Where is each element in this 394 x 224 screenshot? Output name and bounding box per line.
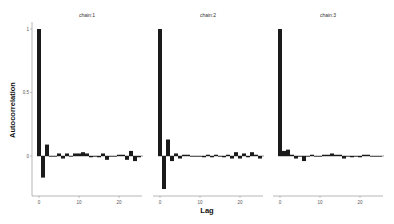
acf-bar xyxy=(113,156,117,157)
acf-bar xyxy=(370,156,374,157)
acf-bar xyxy=(49,156,53,157)
acf-bar xyxy=(210,156,214,157)
acf-bar xyxy=(37,29,41,156)
acf-bar xyxy=(69,156,73,157)
acf-bar xyxy=(354,156,358,157)
acf-bar xyxy=(109,156,113,157)
x-tick-label: 10 xyxy=(197,200,203,205)
acf-bar xyxy=(326,155,330,156)
acf-bar xyxy=(226,155,230,156)
acf-bar xyxy=(182,155,186,156)
x-tick-label: 20 xyxy=(237,200,243,205)
acf-bar xyxy=(77,153,81,156)
x-tick-label: 0 xyxy=(279,200,282,205)
acf-bar xyxy=(73,153,77,156)
acf-bar xyxy=(85,153,89,156)
acf-bar xyxy=(57,153,61,156)
acf-bar xyxy=(137,156,141,157)
acf-bar xyxy=(133,156,137,161)
panel-title: chain:2 xyxy=(200,12,216,18)
acf-bar xyxy=(129,151,133,156)
x-tick-label: 20 xyxy=(357,200,363,205)
acf-bar xyxy=(302,156,306,161)
acf-bar xyxy=(162,156,166,189)
acf-bar xyxy=(166,139,170,156)
acf-bar xyxy=(125,156,129,160)
acf-bar xyxy=(218,156,222,157)
x-tick-label: 10 xyxy=(76,200,82,205)
acf-bar xyxy=(282,151,286,156)
acf-bar xyxy=(250,152,254,156)
acf-bar xyxy=(314,156,318,157)
acf-bar xyxy=(310,155,314,156)
acf-bar xyxy=(254,155,258,156)
panel-title: chain:3 xyxy=(320,12,336,18)
acf-bar xyxy=(358,156,362,157)
acf-bar xyxy=(298,156,302,157)
acf-bar xyxy=(334,155,338,156)
acf-bar xyxy=(338,155,342,156)
acf-bar xyxy=(330,153,334,156)
acf-bar xyxy=(278,29,282,156)
x-tick-label: 0 xyxy=(159,200,162,205)
acf-bar xyxy=(61,156,65,159)
acf-bar xyxy=(89,156,93,157)
acf-bar xyxy=(214,155,218,156)
acf-bar xyxy=(178,156,182,159)
acf-bar xyxy=(198,156,202,157)
acf-bar xyxy=(306,156,310,157)
acf-bar xyxy=(121,155,125,156)
acf-bar xyxy=(65,153,69,156)
acf-bar xyxy=(246,156,250,157)
acf-bar xyxy=(117,155,121,156)
acf-bar xyxy=(194,156,198,157)
x-tick-label: 10 xyxy=(317,200,323,205)
acf-bar xyxy=(158,29,162,156)
acf-bar xyxy=(294,156,298,159)
acf-bar xyxy=(170,156,174,161)
acf-bar xyxy=(190,156,194,157)
acf-bar xyxy=(93,156,97,157)
acf-bar xyxy=(41,156,45,178)
acf-bar xyxy=(53,156,57,157)
acf-bar xyxy=(186,155,190,156)
acf-bar xyxy=(242,153,246,156)
acf-bar xyxy=(374,156,378,157)
acf-bar xyxy=(322,155,326,156)
x-axis-label: Lag xyxy=(200,206,214,215)
acf-bar xyxy=(238,156,242,159)
panel-title: chain:1 xyxy=(79,12,95,18)
acf-bar xyxy=(105,156,109,160)
y-axis-label: Autocorrelation xyxy=(8,82,17,138)
y-tick-label: 0.5 xyxy=(23,90,30,95)
acf-bar xyxy=(101,153,105,156)
acf-bar xyxy=(378,156,382,157)
acf-bar xyxy=(234,152,238,156)
acf-bar xyxy=(286,150,290,156)
acf-bar xyxy=(342,156,346,159)
acf-bar xyxy=(45,145,49,156)
acf-bar xyxy=(174,153,178,156)
x-tick-label: 20 xyxy=(116,200,122,205)
acf-bar xyxy=(230,156,234,159)
acf-bar xyxy=(346,156,350,157)
acf-bar xyxy=(290,155,294,156)
acf-bar xyxy=(258,156,262,159)
x-tick-label: 0 xyxy=(38,200,41,205)
acf-bar xyxy=(222,156,226,157)
acf-bar xyxy=(206,155,210,156)
acf-bar xyxy=(350,156,354,157)
acf-chart: 00.51Autocorrelationchain:101020chain:20… xyxy=(0,0,394,224)
acf-bar xyxy=(362,155,366,156)
acf-bar xyxy=(318,156,322,157)
y-tick-label: 1 xyxy=(26,27,29,32)
acf-bar xyxy=(81,152,85,156)
y-tick-label: 0 xyxy=(26,154,29,159)
acf-bar xyxy=(97,156,101,157)
acf-bar xyxy=(202,156,206,157)
acf-bar xyxy=(366,155,370,156)
